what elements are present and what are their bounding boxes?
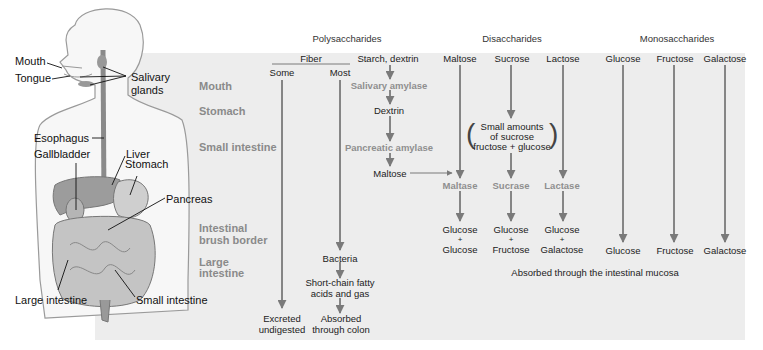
label-absorbed-colon-1: Absorbed [321,313,362,324]
label-maltose-product: Maltose [373,168,406,179]
label-glucose-product: Glucose [606,245,641,256]
label-sucrose: Sucrose [495,53,530,64]
label-bacteria: Bacteria [323,253,358,264]
label-most: Most [330,67,351,78]
enzyme-salivary-amylase: Salivary amylase [351,80,428,91]
label-starch-dextrin: Starch, dextrin [357,53,418,64]
enzyme-maltase: Maltase [443,180,478,191]
label-absorbed-colon-2: through colon [312,324,370,335]
label-excreted-2: undigested [259,324,305,335]
label-fiber: Fiber [300,53,322,64]
label-fructose-product: Fructose [657,245,694,256]
label-scfa-2: acids and gas [311,288,370,299]
label-excreted-1: Excreted [263,313,301,324]
label-galactose-product: Galactose [704,245,747,256]
enzyme-lactase: Lactase [544,180,579,191]
label-lactose: Lactose [546,53,579,64]
label-some: Some [270,67,295,78]
label-dextrin: Dextrin [374,105,404,116]
label-scfa-1: Short-chain fatty [305,277,374,288]
enzyme-sucrase: Sucrase [493,180,530,191]
label-maltose: Maltose [443,53,476,64]
label-fructose-head: Fructose [657,53,694,64]
product-sucrase-2: Fructose [493,244,530,255]
product-maltase-2: Glucose [443,244,478,255]
label-galactose-head: Galactose [704,53,747,64]
product-lactase-2: Galactose [541,244,584,255]
label-small-amounts-3: fructose + glucose [473,141,550,152]
enzyme-pancreatic-amylase: Pancreatic amylase [345,142,433,153]
label-glucose-head: Glucose [606,53,641,64]
label-absorbed-mucosa: Absorbed through the intestinal mucosa [511,267,678,278]
